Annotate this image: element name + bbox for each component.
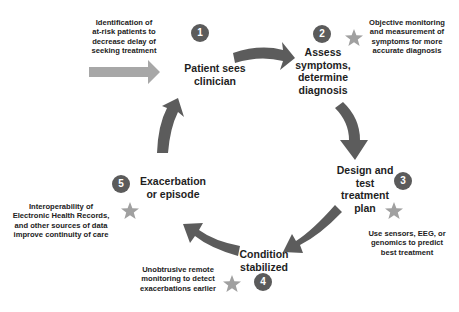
star-icon [120, 201, 140, 221]
step-number-4: 4 [254, 273, 272, 291]
step-label-5: Exacerbation or episode [133, 175, 213, 200]
note-step5: Interoperability of Electronic Health Re… [2, 202, 120, 240]
note-step2: Objective monitoring and measurement of … [362, 18, 452, 56]
step-label-1: Patient sees clinician [172, 62, 258, 87]
note-step3: Use sensors, EEG, or genomics to predict… [360, 229, 454, 257]
star-icon [222, 274, 242, 294]
entry-arrow-icon [89, 60, 160, 84]
step-number-2: 2 [313, 25, 331, 43]
step-label-4: Condition stabilized [232, 248, 296, 273]
star-icon [384, 201, 404, 221]
note-step4: Unobtrusive remote monitoring to detect … [130, 265, 226, 293]
star-icon [344, 28, 364, 48]
curved-arrow-icon [157, 98, 184, 153]
step-number-1: 1 [191, 24, 209, 42]
note-entry: Identification of at-risk patients to de… [84, 18, 164, 56]
step-label-2: Assess symptoms, determine diagnosis [290, 46, 356, 96]
step-number-5: 5 [112, 175, 130, 193]
curved-arrow-icon [335, 102, 368, 160]
